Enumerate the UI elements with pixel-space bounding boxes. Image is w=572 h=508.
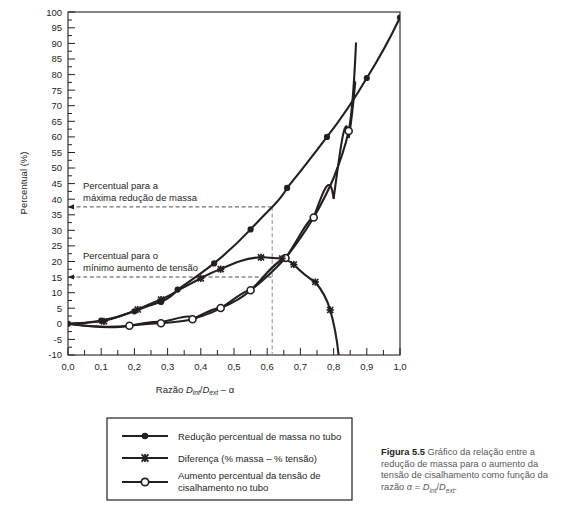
data-point-open-circle bbox=[247, 287, 254, 294]
y-tick-label: 30 bbox=[51, 225, 62, 236]
legend-label-line2: cisalhamento no tubo bbox=[178, 482, 268, 493]
y-tick-label: 80 bbox=[51, 69, 62, 80]
y-tick-label: 75 bbox=[51, 85, 62, 96]
data-point-star-x bbox=[217, 266, 224, 273]
svg-text:Razão Dint/Dext – α: Razão Dint/Dext – α bbox=[156, 384, 235, 396]
y-tick-label: 90 bbox=[51, 38, 62, 49]
data-point-filled-circle bbox=[211, 260, 217, 266]
y-tick-label: 70 bbox=[51, 100, 62, 111]
x-axis-title-suffix: – α bbox=[218, 384, 235, 395]
chart-canvas: -10 -5 0 5 10 15 20 25 30 35 40 45 50 55… bbox=[0, 0, 572, 508]
figure-caption-dext-sub: ext bbox=[446, 487, 455, 494]
star-x-icon bbox=[141, 454, 149, 462]
y-tick-label: -10 bbox=[48, 349, 62, 360]
figure-caption-dint: D bbox=[423, 482, 430, 492]
y-tick-label: 15 bbox=[51, 272, 62, 283]
data-point-star-x bbox=[197, 275, 204, 282]
x-tick-label: 0,5 bbox=[227, 361, 240, 372]
figure-caption-number: Figura 5.5 bbox=[381, 447, 425, 457]
y-tick-label: 60 bbox=[51, 131, 62, 142]
data-point-open-circle bbox=[217, 305, 224, 312]
x-tick-label: 0,9 bbox=[360, 361, 373, 372]
data-point-filled-circle bbox=[284, 185, 290, 191]
legend-label-line1: Aumento percentual da tensão de bbox=[178, 470, 321, 481]
data-point-filled-circle bbox=[397, 14, 403, 20]
data-point-filled-circle bbox=[324, 134, 330, 140]
figure-caption-dext: D bbox=[439, 482, 446, 492]
annotation-line: Percentual para o bbox=[83, 250, 158, 261]
x-tick-label: 1,0 bbox=[393, 361, 406, 372]
y-axis-title-text: Percentual (%) bbox=[18, 152, 29, 215]
data-point-open-circle bbox=[126, 322, 133, 329]
legend: Redução percentual de massa no tubo Dife… bbox=[107, 418, 352, 500]
legend-label: Redução percentual de massa no tubo bbox=[178, 431, 341, 442]
data-point-open-circle bbox=[158, 320, 165, 327]
y-tick-label: 0 bbox=[57, 318, 62, 329]
data-point-star-x bbox=[327, 306, 334, 313]
x-tick-label: 0,0 bbox=[61, 361, 74, 372]
figure-caption: Figura 5.5 Gráfico da relação entre a re… bbox=[381, 447, 567, 496]
data-point-star-x bbox=[279, 255, 286, 262]
x-tick-labels: 0,0 0,1 0,2 0,3 0,4 0,5 0,6 0,7 0,8 0,9 … bbox=[61, 361, 406, 372]
figure-5-5: -10 -5 0 5 10 15 20 25 30 35 40 45 50 55… bbox=[0, 0, 572, 508]
y-tick-label: -5 bbox=[54, 334, 62, 345]
y-tick-label: 45 bbox=[51, 178, 62, 189]
x-axis-title-prefix: Razão bbox=[156, 384, 186, 395]
data-point-star-x bbox=[157, 296, 164, 303]
y-tick-label: 100 bbox=[46, 7, 62, 18]
x-tick-label: 0,8 bbox=[327, 361, 340, 372]
data-point-filled-circle bbox=[364, 75, 370, 81]
y-tick-label: 40 bbox=[51, 194, 62, 205]
annotation-line: mínimo aumento de tensão bbox=[83, 262, 198, 273]
x-tick-label: 0,3 bbox=[161, 361, 174, 372]
x-tick-label: 0,7 bbox=[294, 361, 307, 372]
data-point-open-circle bbox=[345, 128, 352, 135]
x-tick-label: 0,1 bbox=[95, 361, 108, 372]
data-point-filled-circle bbox=[248, 226, 254, 232]
y-tick-label: 65 bbox=[51, 116, 62, 127]
y-tick-label: 50 bbox=[51, 162, 62, 173]
data-point-open-circle bbox=[310, 214, 317, 221]
figure-caption-alpha: α bbox=[407, 482, 412, 492]
annotation-line: Percentual para a bbox=[83, 180, 159, 191]
y-tick-label: 20 bbox=[51, 256, 62, 267]
filled-circle-icon bbox=[142, 433, 149, 440]
data-point-star-x bbox=[312, 278, 319, 285]
figure-caption-equals: = bbox=[415, 482, 420, 492]
y-tick-label: 5 bbox=[57, 303, 62, 314]
y-tick-label: 10 bbox=[51, 287, 62, 298]
y-tick-label: 25 bbox=[51, 240, 62, 251]
data-point-star-x bbox=[100, 318, 107, 325]
y-tick-labels: -10 -5 0 5 10 15 20 25 30 35 40 45 50 55… bbox=[46, 7, 62, 361]
annotation-line: máxima redução de massa bbox=[83, 192, 198, 203]
data-point-star-x bbox=[134, 306, 141, 313]
open-circle-icon bbox=[141, 478, 148, 485]
x-tick-label: 0,4 bbox=[194, 361, 207, 372]
x-tick-label: 0,2 bbox=[128, 361, 141, 372]
y-axis-title: Percentual (%) bbox=[18, 152, 29, 215]
x-tick-label: 0,6 bbox=[261, 361, 274, 372]
data-point-star-x bbox=[257, 254, 264, 261]
data-point-open-circle bbox=[189, 316, 196, 323]
y-tick-label: 55 bbox=[51, 147, 62, 158]
data-point-filled-circle bbox=[175, 287, 181, 293]
y-tick-label: 85 bbox=[51, 53, 62, 64]
y-tick-label: 35 bbox=[51, 209, 62, 220]
y-tick-label: 95 bbox=[51, 22, 62, 33]
figure-caption-period: . bbox=[455, 482, 458, 492]
legend-label: Diferença (% massa – % tensão) bbox=[178, 453, 317, 464]
data-point-filled-circle bbox=[65, 321, 71, 327]
data-point-star-x bbox=[290, 261, 297, 268]
x-axis-title: Razão Dint/Dext – α bbox=[156, 384, 235, 396]
